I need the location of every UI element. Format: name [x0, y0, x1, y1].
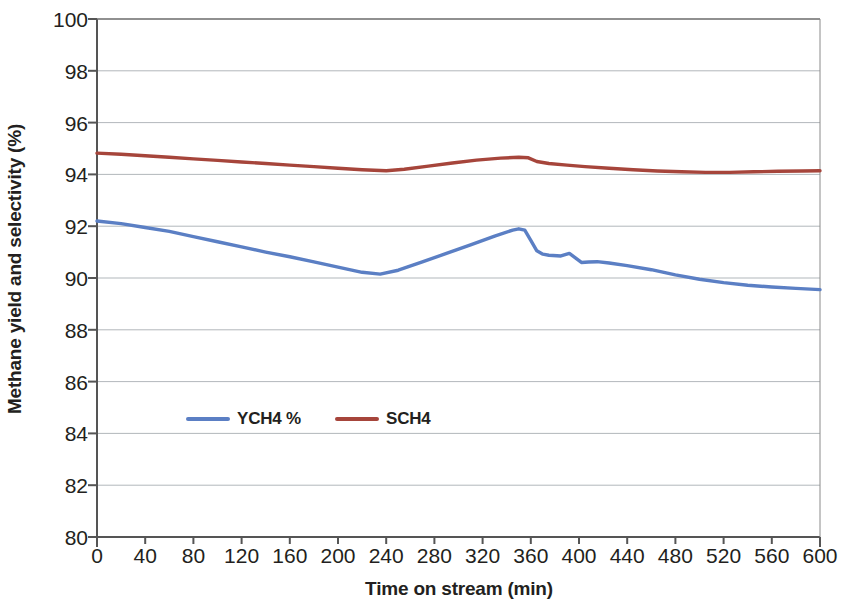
x-tick-label: 320	[465, 545, 500, 566]
methane-yield-selectivity-chart: Methane yield and selectivity (%) 100989…	[0, 0, 841, 609]
x-tick-label: 80	[182, 545, 205, 566]
legend-label: YCH4 %	[237, 409, 301, 429]
x-tick-label: 40	[134, 545, 157, 566]
x-tick-label: 160	[272, 545, 307, 566]
x-tick-label: 0	[91, 545, 103, 566]
x-tick-label: 400	[561, 545, 596, 566]
chart-legend: YCH4 %SCH4	[186, 409, 431, 429]
x-tick-label: 600	[802, 545, 837, 566]
x-tick-label: 280	[417, 545, 452, 566]
plot-area	[0, 0, 841, 609]
x-tick-label: 360	[513, 545, 548, 566]
x-tick-label: 560	[754, 545, 789, 566]
x-tick-label: 120	[224, 545, 259, 566]
legend-item: YCH4 %	[186, 409, 301, 429]
x-axis-tick-labels: 0408012016020024028032036040044048052056…	[0, 545, 841, 575]
legend-label: SCH4	[386, 409, 431, 429]
x-tick-label: 200	[320, 545, 355, 566]
legend-line-swatch	[335, 417, 379, 421]
x-axis-title: Time on stream (min)	[96, 578, 822, 600]
x-tick-label: 520	[706, 545, 741, 566]
legend-line-swatch	[186, 417, 230, 421]
y-axis-ticks	[88, 19, 97, 537]
x-tick-label: 440	[610, 545, 645, 566]
legend-item: SCH4	[335, 409, 431, 429]
x-tick-label: 240	[369, 545, 404, 566]
x-tick-label: 480	[658, 545, 693, 566]
data-series-lines	[97, 153, 820, 290]
